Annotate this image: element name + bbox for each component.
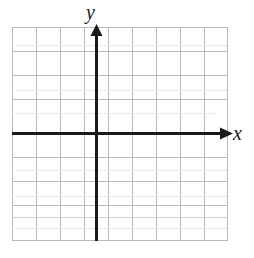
y-axis-label: y bbox=[86, 2, 95, 22]
x-axis-label: x bbox=[233, 123, 242, 143]
coordinate-plane-svg bbox=[0, 0, 254, 258]
coordinate-grid-figure: y x bbox=[0, 0, 254, 258]
